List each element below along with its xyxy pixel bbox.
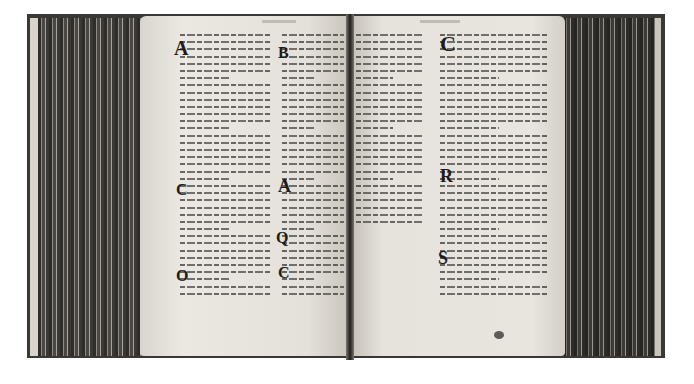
script-line (440, 214, 548, 216)
initial-letter: C (176, 182, 188, 198)
script-line (282, 199, 344, 201)
script-line (440, 235, 548, 237)
script-line (356, 48, 424, 50)
script-line (440, 84, 548, 86)
script-line (356, 84, 424, 86)
script-line (180, 48, 272, 50)
script-line (180, 106, 272, 108)
script-line (180, 149, 272, 151)
script-line (180, 84, 272, 86)
initial-letter: A (278, 178, 291, 194)
script-line (440, 221, 548, 223)
script-line (440, 199, 548, 201)
script-line (356, 135, 424, 137)
script-line (180, 214, 272, 216)
script-line (282, 92, 344, 94)
script-line (180, 142, 272, 144)
script-line (440, 242, 548, 244)
script-line (356, 99, 424, 101)
script-line (180, 264, 272, 266)
script-line (440, 149, 548, 151)
script-line (356, 163, 424, 165)
script-line (440, 250, 548, 252)
script-line (282, 48, 344, 50)
script-line (180, 242, 272, 244)
script-line (356, 171, 424, 173)
script-line (180, 199, 272, 201)
script-line (440, 171, 548, 173)
script-line (180, 192, 272, 194)
script-line (180, 235, 272, 237)
initial-letter: O (176, 268, 188, 284)
script-line (282, 99, 344, 101)
script-line (440, 99, 548, 101)
script-line (282, 293, 344, 295)
script-line (282, 235, 344, 237)
script-line (356, 113, 424, 115)
script-line (180, 185, 272, 187)
script-line (180, 70, 272, 72)
script-line (356, 156, 424, 158)
script-line (282, 242, 344, 244)
script-line (356, 142, 424, 144)
script-line (282, 171, 344, 173)
script-line (440, 264, 548, 266)
script-line (356, 192, 424, 194)
initial-letter: Q (276, 230, 288, 246)
script-line (440, 48, 548, 50)
script-line (440, 113, 548, 115)
script-line (282, 113, 344, 115)
left-text-block-edge (30, 18, 146, 356)
initial-letter: R (440, 168, 453, 184)
script-line (282, 257, 344, 259)
script-line (356, 185, 424, 187)
script-line (440, 286, 548, 288)
script-line (282, 41, 344, 43)
script-line (180, 163, 272, 165)
script-line (282, 221, 344, 223)
script-line (440, 271, 548, 273)
script-line (180, 34, 272, 36)
script-line (440, 142, 548, 144)
initial-letter: A (174, 40, 188, 56)
script-line (282, 286, 344, 288)
script-line (282, 163, 344, 165)
script-line (356, 178, 393, 180)
script-line (180, 271, 272, 273)
script-line (356, 56, 424, 58)
script-line (440, 185, 548, 187)
script-line (180, 113, 272, 115)
script-line (180, 135, 272, 137)
script-line (180, 120, 272, 122)
script-line (356, 207, 424, 209)
right-page-column-2 (440, 34, 548, 300)
script-line (440, 41, 548, 43)
left-page-column-1 (180, 34, 272, 300)
script-line (180, 77, 231, 79)
script-line (180, 99, 272, 101)
script-line (356, 70, 424, 72)
script-line (282, 149, 344, 151)
script-line (440, 207, 548, 209)
script-line (440, 77, 499, 79)
script-line (180, 228, 231, 230)
script-line (282, 120, 344, 122)
script-line (356, 214, 424, 216)
script-line (282, 106, 344, 108)
script-line (440, 92, 548, 94)
script-line (282, 156, 344, 158)
script-line (282, 250, 344, 252)
script-line (356, 127, 393, 129)
script-line (282, 127, 316, 129)
script-line (180, 63, 272, 65)
script-line (180, 41, 272, 43)
script-line (440, 70, 548, 72)
script-line (282, 271, 344, 273)
script-line (440, 293, 548, 295)
right-page-column-1 (356, 34, 424, 228)
book-gutter (346, 14, 354, 360)
script-line (180, 56, 272, 58)
left-page-column-2 (282, 34, 344, 300)
script-line (180, 250, 272, 252)
script-line (440, 156, 548, 158)
